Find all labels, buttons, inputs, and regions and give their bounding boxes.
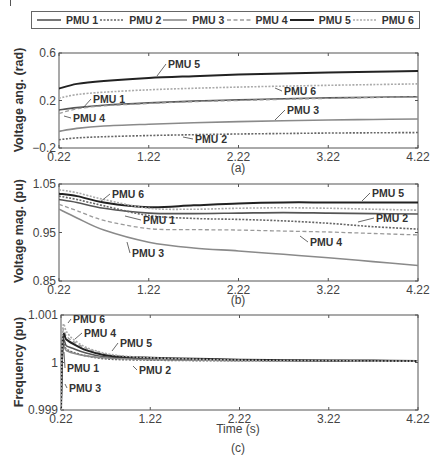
- series-line: [61, 339, 418, 410]
- series-annotation: PMU 2: [139, 364, 171, 376]
- series-annotation: PMU 1: [67, 362, 99, 374]
- series-annotation: PMU 4: [73, 112, 105, 124]
- series-line: [61, 329, 418, 410]
- panel-label-a: (a): [231, 161, 246, 175]
- y-axis-label-c: Frequency (pu): [12, 317, 26, 407]
- x-tick-label: 4.22: [406, 283, 430, 297]
- series-annotation: PMU 5: [168, 58, 200, 70]
- x-tick-label: 3.22: [317, 150, 341, 164]
- series-line: [59, 119, 418, 131]
- y-tick-label: 0.999: [28, 403, 58, 417]
- x-tick-label: 3.22: [317, 412, 341, 426]
- x-tick-label: 4.22: [406, 412, 430, 426]
- series-line: [59, 71, 418, 89]
- y-tick-label: 0.85: [33, 274, 57, 288]
- series-annotation: PMU 2: [376, 212, 408, 224]
- series-annotation: PMU 5: [120, 337, 152, 349]
- x-tick-label: 1.22: [139, 412, 163, 426]
- series-annotation: PMU 3: [132, 247, 164, 259]
- y-tick-label: 0.95: [33, 226, 57, 240]
- y-tick-label: −0.2: [32, 141, 56, 155]
- panel-label-c: (c): [231, 441, 245, 455]
- panel-voltage-angle: 0.221.222.223.224.22−0.20.20.6PMU 5PMU 6…: [32, 46, 430, 164]
- panel-frequency: 0.221.222.223.224.220.99911.001PMU 6PMU …: [28, 308, 430, 426]
- series-line: [59, 133, 418, 140]
- series-annotation: PMU 1: [143, 214, 175, 226]
- series-annotation: PMU 3: [287, 104, 319, 116]
- x-axis-label-c: Time (s): [216, 422, 260, 436]
- series-annotation: PMU 3: [69, 382, 101, 394]
- y-axis-label-b: Voltage mag. (pu): [12, 179, 26, 283]
- series-line: [59, 209, 418, 265]
- y-tick-label: 1.05: [33, 177, 57, 191]
- series-line: [61, 334, 418, 410]
- x-tick-label: 1.22: [137, 283, 161, 297]
- y-tick-label: 0.2: [39, 94, 56, 108]
- series-annotation: PMU 6: [112, 188, 144, 200]
- series-annotation: PMU 2: [195, 133, 227, 145]
- x-tick-label: 4.22: [406, 150, 430, 164]
- series-annotation: PMU 6: [73, 313, 105, 325]
- series-annotation: PMU 4: [84, 327, 116, 339]
- x-tick-label: 3.22: [317, 283, 341, 297]
- panel-voltage-magnitude: 0.221.222.223.224.220.850.951.05PMU 6PMU…: [33, 177, 430, 297]
- y-tick-label: 0.6: [39, 46, 56, 60]
- y-tick-label: 1.001: [28, 308, 58, 322]
- panel-label-b: (b): [231, 293, 246, 307]
- series-line: [61, 344, 418, 410]
- series-annotation: PMU 1: [93, 93, 125, 105]
- y-axis-label-a: Voltage ang. (rad): [12, 48, 26, 153]
- y-tick-label: 1: [51, 356, 58, 370]
- series-annotation: PMU 5: [372, 187, 404, 199]
- x-tick-label: 1.22: [137, 150, 161, 164]
- figure-charts: 0.221.222.223.224.22−0.20.20.6PMU 5PMU 6…: [0, 0, 442, 467]
- series-annotation: PMU 4: [310, 236, 342, 248]
- series-annotation: PMU 6: [284, 85, 316, 97]
